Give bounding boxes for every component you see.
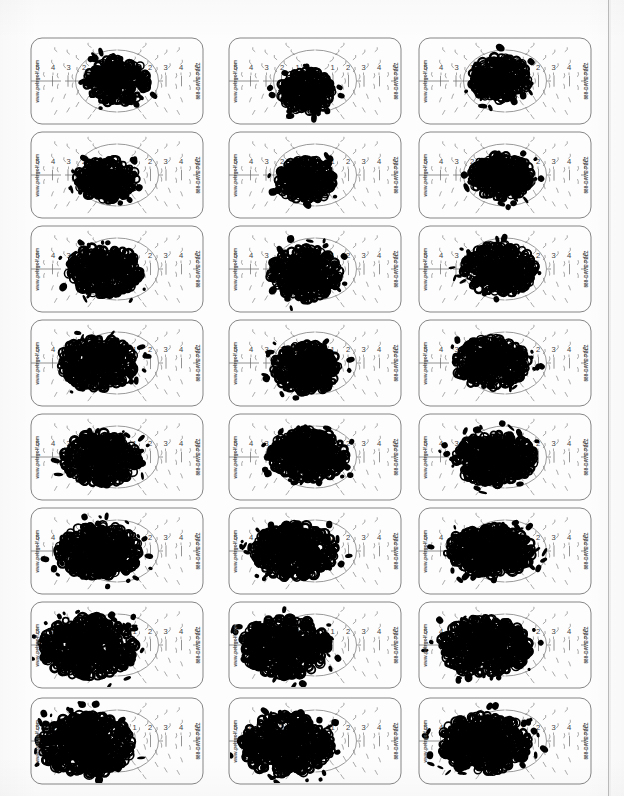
target-card: 1234512345www.pelzgolf.com888-DAVE-PELZ xyxy=(30,507,204,595)
brand-phone-label: 888-DAVE-PELZ xyxy=(393,438,398,475)
brand-url-label: www.pelzgolf.com xyxy=(232,154,237,197)
ink-mass xyxy=(450,335,546,393)
ink-mass xyxy=(260,423,355,487)
brand-url-label: www.pelzgolf.com xyxy=(232,248,237,291)
ink-mass xyxy=(448,233,541,303)
ink-mass xyxy=(228,706,341,785)
brand-url-label: www.pelzgolf.com xyxy=(34,60,39,103)
ink-mass xyxy=(68,154,144,207)
target-card: 1234512345www.pelzgolf.com888-DAVE-PELZ xyxy=(418,131,592,219)
brand-phone-label: 888-DAVE-PELZ xyxy=(195,722,200,759)
target-card: 1234512345www.pelzgolf.com888-DAVE-PELZ xyxy=(30,697,204,785)
brand-phone-label: 888-DAVE-PELZ xyxy=(583,722,588,759)
target-card: 1234512345www.pelzgolf.com888-DAVE-PELZ xyxy=(228,507,402,595)
ball-strike-ink-blot xyxy=(30,37,204,125)
target-card: 1234512345www.pelzgolf.com888-DAVE-PELZ xyxy=(228,225,402,313)
ball-strike-ink-blot xyxy=(418,413,592,501)
ball-strike-ink-blot xyxy=(228,319,402,407)
brand-phone-label: 888-DAVE-PELZ xyxy=(195,62,200,99)
brand-phone-label: 888-DAVE-PELZ xyxy=(195,532,200,569)
brand-url-label: www.pelzgolf.com xyxy=(232,530,237,573)
ink-mass xyxy=(437,420,539,495)
ink-mass xyxy=(266,63,346,123)
brand-phone-label: 888-DAVE-PELZ xyxy=(583,438,588,475)
ball-strike-ink-blot xyxy=(228,225,402,313)
target-card: 1234512345www.pelzgolf.com888-DAVE-PELZ xyxy=(418,601,592,689)
ink-mass xyxy=(427,519,549,584)
brand-phone-label: 888-DAVE-PELZ xyxy=(393,532,398,569)
brand-url-label: www.pelzgolf.com xyxy=(422,60,427,103)
brand-url-label: www.pelzgolf.com xyxy=(422,624,427,667)
ball-strike-ink-blot xyxy=(228,697,402,785)
ball-strike-ink-blot xyxy=(30,131,204,219)
target-card: 1234512345www.pelzgolf.com888-DAVE-PELZ xyxy=(228,413,402,501)
brand-phone-label: 888-DAVE-PELZ xyxy=(393,62,398,99)
brand-url-label: www.pelzgolf.com xyxy=(422,248,427,291)
ball-strike-ink-blot xyxy=(30,697,204,785)
target-card: 1234512345www.pelzgolf.com888-DAVE-PELZ xyxy=(418,413,592,501)
ink-mass xyxy=(30,699,146,785)
target-card: 1234512345www.pelzgolf.com888-DAVE-PELZ xyxy=(418,37,592,125)
brand-url-label: www.pelzgolf.com xyxy=(232,624,237,667)
ink-mass xyxy=(40,512,154,590)
ball-strike-ink-blot xyxy=(418,601,592,689)
brand-phone-label: 888-DAVE-PELZ xyxy=(195,438,200,475)
ink-mass xyxy=(261,337,355,401)
ink-mass xyxy=(58,238,147,303)
ball-strike-ink-blot xyxy=(30,225,204,313)
ball-strike-ink-blot xyxy=(30,507,204,595)
brand-phone-label: 888-DAVE-PELZ xyxy=(583,532,588,569)
ink-mass xyxy=(50,427,150,487)
ball-strike-ink-blot xyxy=(30,319,204,407)
brand-phone-label: 888-DAVE-PELZ xyxy=(583,250,588,287)
target-card: 1234512345www.pelzgolf.com888-DAVE-PELZ xyxy=(228,319,402,407)
brand-url-label: www.pelzgolf.com xyxy=(34,342,39,385)
brand-phone-label: 888-DAVE-PELZ xyxy=(583,626,588,663)
brand-phone-label: 888-DAVE-PELZ xyxy=(393,250,398,287)
brand-phone-label: 888-DAVE-PELZ xyxy=(393,722,398,759)
target-card: 1234512345www.pelzgolf.com888-DAVE-PELZ xyxy=(30,37,204,125)
ball-strike-ink-blot xyxy=(418,225,592,313)
ball-strike-ink-blot xyxy=(228,37,402,125)
target-card: 1234512345www.pelzgolf.com888-DAVE-PELZ xyxy=(30,601,204,689)
target-card: 1234512345www.pelzgolf.com888-DAVE-PELZ xyxy=(228,131,402,219)
ink-mass xyxy=(30,609,145,689)
brand-url-label: www.pelzgolf.com xyxy=(34,248,39,291)
brand-phone-label: 888-DAVE-PELZ xyxy=(393,626,398,663)
target-card: 1234512345www.pelzgolf.com888-DAVE-PELZ xyxy=(418,319,592,407)
target-card: 1234512345www.pelzgolf.com888-DAVE-PELZ xyxy=(228,601,402,689)
ink-mass xyxy=(267,151,338,210)
target-card: 1234512345www.pelzgolf.com888-DAVE-PELZ xyxy=(418,225,592,313)
ball-strike-ink-blot xyxy=(228,601,402,689)
ball-strike-ink-blot xyxy=(30,601,204,689)
brand-phone-label: 888-DAVE-PELZ xyxy=(583,156,588,193)
brand-phone-label: 888-DAVE-PELZ xyxy=(393,344,398,381)
ball-strike-ink-blot xyxy=(418,37,592,125)
brand-url-label: www.pelzgolf.com xyxy=(232,342,237,385)
brand-url-label: www.pelzgolf.com xyxy=(422,436,427,479)
ink-mass xyxy=(266,235,349,312)
ball-strike-ink-blot xyxy=(418,131,592,219)
brand-url-label: www.pelzgolf.com xyxy=(232,720,237,763)
target-card: 1234512345www.pelzgolf.com888-DAVE-PELZ xyxy=(418,697,592,785)
brand-url-label: www.pelzgolf.com xyxy=(422,154,427,197)
brand-phone-label: 888-DAVE-PELZ xyxy=(195,344,200,381)
target-card: 1234512345www.pelzgolf.com888-DAVE-PELZ xyxy=(30,413,204,501)
ball-strike-ink-blot xyxy=(30,413,204,501)
ink-mass xyxy=(463,42,536,112)
scanned-page: 1234512345www.pelzgolf.com888-DAVE-PELZ1… xyxy=(0,0,624,796)
ball-strike-ink-blot xyxy=(418,697,592,785)
ink-mass xyxy=(77,47,158,110)
brand-phone-label: 888-DAVE-PELZ xyxy=(195,626,200,663)
ball-strike-ink-blot xyxy=(418,319,592,407)
brand-url-label: www.pelzgolf.com xyxy=(34,154,39,197)
ball-strike-ink-blot xyxy=(228,507,402,595)
ball-strike-ink-blot xyxy=(228,131,402,219)
ink-mass xyxy=(239,520,353,582)
brand-url-label: www.pelzgolf.com xyxy=(34,436,39,479)
target-card: 1234512345www.pelzgolf.com888-DAVE-PELZ xyxy=(418,507,592,595)
brand-phone-label: 888-DAVE-PELZ xyxy=(393,156,398,193)
ink-mass xyxy=(58,330,152,394)
brand-url-label: www.pelzgolf.com xyxy=(422,342,427,385)
brand-phone-label: 888-DAVE-PELZ xyxy=(195,156,200,193)
